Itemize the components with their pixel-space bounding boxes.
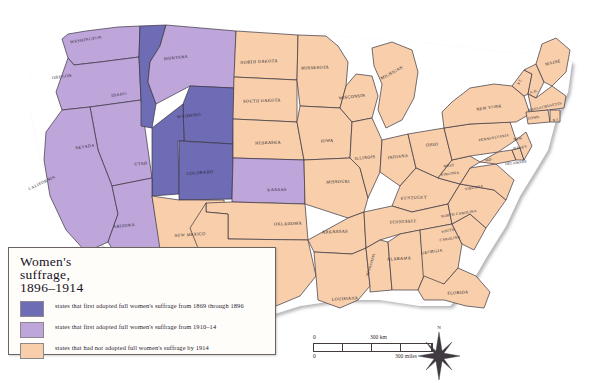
scale-km-zero: 0 — [313, 334, 316, 340]
legend-swatch-peach — [20, 343, 44, 359]
state-label-IA: IOWA — [321, 138, 334, 143]
state-IA — [297, 106, 352, 160]
state-label-MN: MINNESOTA — [301, 64, 330, 70]
map-legend: Women's suffrage, 1896–1914 states that … — [8, 247, 276, 355]
state-label-OK: OKLAHOMA — [274, 220, 303, 226]
state-label-MO: MISSOURI — [326, 179, 350, 185]
legend-label-light-purple: states that first adopted full women's s… — [55, 322, 216, 331]
state-KS — [232, 158, 305, 204]
state-ND — [234, 31, 298, 80]
legend-label-dark-purple: states that first adopted full women's s… — [55, 301, 244, 310]
state-label-NE: NEBRASKA — [255, 140, 282, 146]
legend-label-peach: states that had not adopted full women's… — [55, 343, 209, 352]
map-figure: WASHINGTONOREGONCALIFORNIANEVADAIDAHOMON… — [0, 0, 593, 383]
state-label-OH: OHIO — [426, 141, 439, 147]
state-label-KS: KANSAS — [267, 187, 287, 192]
legend-item-dark-purple: states that first adopted full women's s… — [20, 301, 266, 317]
scale-km-max: 300 km — [370, 334, 387, 340]
legend-swatch-dark-purple — [20, 301, 44, 317]
state-label-AR: ARKANSAS — [322, 229, 348, 235]
compass-star-icon — [413, 326, 465, 380]
legend-swatch-light-purple — [20, 322, 44, 338]
legend-title: Women's suffrage, 1896–1914 — [20, 255, 266, 295]
legend-item-light-purple: states that first adopted full women's s… — [20, 322, 266, 338]
scale-mi-zero: 0 — [313, 353, 316, 359]
legend-title-line-3: 1896–1914 — [20, 280, 83, 295]
legend-item-peach: states that had not adopted full women's… — [20, 343, 266, 359]
compass-rose: N — [413, 326, 465, 380]
compass-north-label: N — [437, 325, 441, 330]
